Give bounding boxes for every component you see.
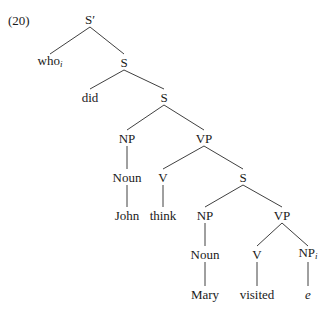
node-label: VP xyxy=(274,208,291,223)
tree-node: Mary xyxy=(191,287,219,302)
tree-node: S xyxy=(160,90,167,105)
tree-edge xyxy=(204,146,243,169)
node-label: Mary xyxy=(191,287,219,302)
tree-edge xyxy=(127,105,164,130)
node-index: i xyxy=(60,59,63,69)
node-label: VP xyxy=(196,131,213,146)
tree-edge xyxy=(90,27,124,54)
node-label: Noun xyxy=(113,170,142,185)
node-label: who xyxy=(38,53,60,68)
tree-node: S xyxy=(239,170,246,185)
node-label: John xyxy=(115,208,140,223)
node-label: NP xyxy=(119,131,136,146)
tree-node: visited xyxy=(240,287,275,302)
tree-node: Noun xyxy=(191,247,220,262)
tree-node: Noun xyxy=(113,170,142,185)
tree-node: V xyxy=(158,170,167,185)
tree-node: S′ xyxy=(85,12,95,27)
tree-node: John xyxy=(115,208,140,223)
tree-edge xyxy=(257,223,282,246)
tree-edge xyxy=(90,70,124,89)
tree-node: did xyxy=(82,90,99,105)
tree-node: NP xyxy=(119,131,136,146)
node-label: NP xyxy=(197,208,214,223)
tree-node: think xyxy=(150,208,177,223)
node-label: visited xyxy=(240,287,275,302)
node-label: S xyxy=(239,170,246,185)
tree-node: e xyxy=(305,287,311,302)
node-label: e xyxy=(305,287,311,302)
tree-edges xyxy=(0,0,328,311)
tree-node: V xyxy=(252,247,261,262)
node-label: V xyxy=(158,170,167,185)
node-label: S xyxy=(120,55,127,70)
node-label: NP xyxy=(298,245,315,260)
tree-edge xyxy=(163,146,204,169)
node-label: Noun xyxy=(191,247,220,262)
tree-edge xyxy=(164,105,204,130)
node-label: S xyxy=(160,90,167,105)
tree-edge xyxy=(205,185,243,207)
node-label: did xyxy=(82,90,99,105)
tree-node: VP xyxy=(274,208,291,223)
node-index: i xyxy=(315,251,318,261)
tree-edge xyxy=(124,70,164,89)
tree-node: VP xyxy=(196,131,213,146)
tree-edge xyxy=(243,185,282,207)
tree-node: S xyxy=(120,55,127,70)
tree-node: NP xyxy=(197,208,214,223)
node-label: S′ xyxy=(85,12,95,27)
tree-node: whoi xyxy=(38,53,63,72)
node-label: V xyxy=(252,247,261,262)
tree-edge xyxy=(282,223,308,246)
node-label: think xyxy=(150,208,177,223)
tree-node: NPi xyxy=(298,245,317,264)
tree-edge xyxy=(50,27,90,54)
